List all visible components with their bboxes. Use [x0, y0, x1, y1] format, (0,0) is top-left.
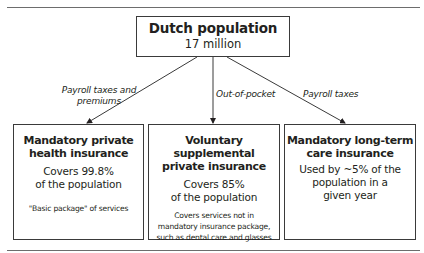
edge-label-out-of-pocket: Out-of-pocket: [216, 89, 275, 100]
node-title: Mandatory long-term care insurance: [285, 134, 415, 160]
title-line: health insurance: [14, 147, 143, 160]
title-line: care insurance: [285, 147, 415, 160]
coverage-line: Covers 85%: [149, 178, 279, 191]
coverage-line: population in a: [285, 176, 415, 189]
coverage-line: of the population: [14, 178, 143, 191]
title-line: Voluntary supplemental: [149, 134, 279, 160]
node-voluntary-supplemental-insurance: Voluntary supplemental private insurance…: [148, 124, 280, 240]
note-line: such as dental care and glasses: [149, 232, 279, 243]
root-subtitle: 17 million: [137, 37, 289, 51]
coverage-line: of the population: [149, 191, 279, 204]
note-line: mandatory insurance package,: [149, 221, 279, 232]
coverage-line: Used by ~5% of the: [285, 163, 415, 176]
edge-label-line: Payroll taxes and: [60, 85, 138, 96]
title-line: Mandatory long-term: [285, 134, 415, 147]
node-note: "Basic package" of services: [14, 203, 143, 214]
root-node-dutch-population: Dutch population 17 million: [136, 16, 290, 57]
note-line: "Basic package" of services: [14, 203, 143, 214]
title-line: private insurance: [149, 160, 279, 173]
node-coverage: Covers 99.8% of the population: [14, 165, 143, 191]
coverage-line: Covers 99.8%: [14, 165, 143, 178]
node-mandatory-health-insurance: Mandatory private health insurance Cover…: [13, 124, 144, 240]
note-line: Covers services not in: [149, 210, 279, 221]
root-title: Dutch population: [137, 20, 289, 36]
node-coverage: Used by ~5% of the population in a given…: [285, 163, 415, 202]
node-note: Covers services not in mandatory insuran…: [149, 210, 279, 243]
edge-label-line: premiums: [60, 96, 138, 107]
edge-label-payroll-taxes: Payroll taxes: [303, 89, 358, 100]
node-title: Mandatory private health insurance: [14, 134, 143, 160]
title-line: Mandatory private: [14, 134, 143, 147]
coverage-line: given year: [285, 189, 415, 202]
node-long-term-care-insurance: Mandatory long-term care insurance Used …: [284, 124, 416, 240]
node-title: Voluntary supplemental private insurance: [149, 134, 279, 173]
edge-label-payroll-taxes-premiums: Payroll taxes and premiums: [60, 85, 138, 107]
node-coverage: Covers 85% of the population: [149, 178, 279, 204]
